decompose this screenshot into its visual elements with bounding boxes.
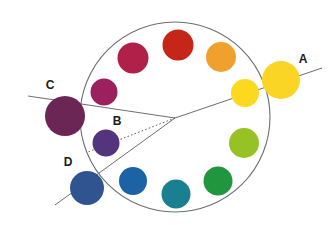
hue-patch-yellow — [231, 79, 259, 107]
label-a: A — [299, 52, 308, 66]
hue-patch-dark-red — [163, 30, 194, 61]
label-d: D — [64, 155, 73, 169]
hue-patch-orange — [206, 42, 236, 72]
label-c: C — [46, 78, 55, 92]
hue-patch-dark-blue-d — [70, 171, 104, 205]
label-b: B — [113, 114, 122, 128]
hue-patch-blue — [119, 167, 147, 195]
hue-patch-yellow-green — [229, 128, 259, 158]
hue-patch-purple-b — [93, 130, 120, 157]
hue-patch-dark-purple-c — [45, 96, 85, 136]
hue-patch-teal — [162, 180, 191, 209]
hue-patch-crimson — [118, 43, 149, 74]
hue-patch-yellow-large-a — [262, 61, 300, 99]
color-wheel-figure: A B C D — [0, 0, 335, 225]
hue-patch-magenta-purple — [91, 79, 118, 106]
hue-patch-green — [204, 167, 233, 196]
